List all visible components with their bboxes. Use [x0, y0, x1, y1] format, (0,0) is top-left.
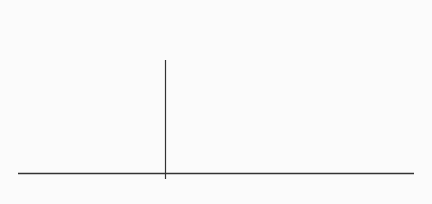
normal-curve-diagram	[0, 0, 432, 204]
